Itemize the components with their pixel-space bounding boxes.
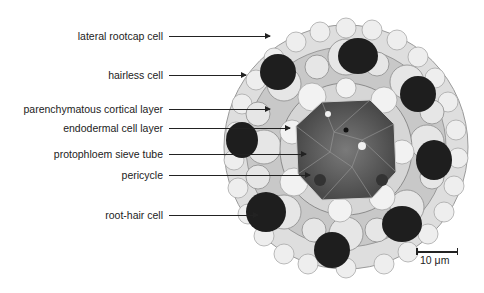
figure-label: hairless cell	[108, 69, 163, 81]
figure-label: endodermal cell layer	[63, 122, 163, 134]
label-arrow	[169, 109, 270, 110]
label-arrow	[169, 128, 290, 129]
figure-label: protophloem sieve tube	[54, 148, 163, 160]
label-arrow	[169, 36, 270, 37]
root-cross-section-micrograph	[222, 12, 470, 282]
label-arrow	[169, 215, 258, 216]
figure-label: parenchymatous cortical layer	[24, 103, 163, 115]
label-arrow	[169, 75, 246, 76]
label-arrow	[169, 154, 306, 155]
figure-label: root-hair cell	[105, 209, 163, 221]
label-arrow	[169, 175, 310, 176]
scale-bar-label: 10 μm	[420, 254, 449, 266]
scale-bar	[416, 251, 458, 253]
figure-label: lateral rootcap cell	[78, 30, 163, 42]
figure-label: pericycle	[122, 169, 163, 181]
